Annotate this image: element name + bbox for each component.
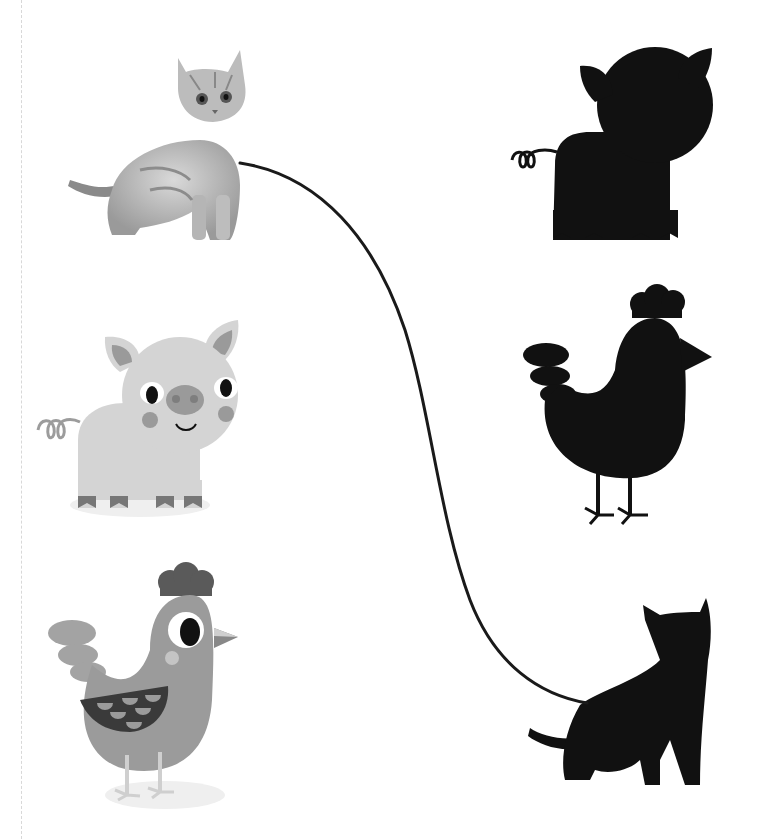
kitten-photo[interactable] [0, 0, 757, 839]
cat-silhouette[interactable] [0, 0, 757, 839]
pig-silhouette-icon [512, 47, 713, 240]
hen-silhouette[interactable] [0, 0, 757, 839]
hen-silhouette-icon [523, 284, 712, 524]
pig-icon [38, 320, 238, 517]
worksheet-page [0, 0, 757, 839]
cut-guide-line [21, 0, 22, 839]
match-line-kitten-to-cat[interactable] [0, 0, 757, 839]
kitten-icon [68, 50, 246, 240]
hen-icon [48, 562, 238, 809]
hen-cartoon[interactable] [0, 0, 757, 839]
cat-silhouette-icon [528, 598, 711, 785]
pig-silhouette[interactable] [0, 0, 757, 839]
pig-cartoon[interactable] [0, 0, 757, 839]
